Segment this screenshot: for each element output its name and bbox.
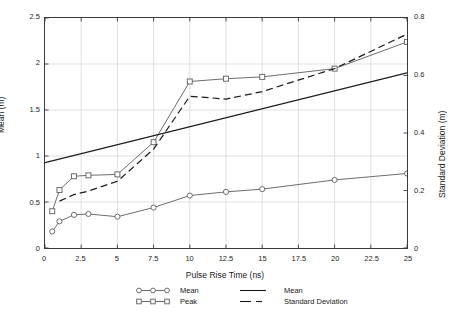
legend-symbol-dashed-line: [240, 296, 280, 307]
legend-item-mean-markers: Mean: [136, 285, 240, 296]
axis-tick-label: 15: [258, 255, 266, 263]
axis-tick-label: 10: [185, 255, 193, 263]
chart-legend: Mean Mean Peak Standard Deviation: [136, 285, 386, 307]
legend-item-peak-markers: Peak: [136, 296, 240, 307]
legend-label: Mean: [180, 285, 199, 296]
legend-row: Mean Mean: [136, 285, 386, 296]
legend-symbol-solid-line: [240, 285, 280, 296]
axis-tick-label: 0: [14, 245, 40, 253]
legend-symbol-square-line: [136, 296, 176, 307]
axis-tick-label: 2.5: [14, 13, 40, 21]
legend-item-std-line: Standard Deviation: [240, 296, 348, 307]
legend-item-mean-line: Mean: [240, 285, 303, 296]
axis-tick-label: 1.5: [14, 106, 40, 114]
legend-label: Peak: [180, 296, 197, 307]
legend-label: Standard Deviation: [284, 296, 348, 307]
data-layer: [45, 18, 407, 248]
axis-tick-label: 0.5: [14, 199, 40, 207]
y-axis-right-title: Standard Deviation (m): [437, 111, 447, 198]
legend-row: Peak Standard Deviation: [136, 296, 386, 307]
x-axis-title: Pulse Rise Time (ns): [186, 270, 264, 280]
axis-tick-label: 0.8: [414, 13, 440, 21]
axis-tick-label: 7.5: [148, 255, 158, 263]
axis-tick-label: 2: [14, 60, 40, 68]
axis-tick-label: 20: [331, 255, 339, 263]
axis-tick-label: 22.5: [364, 255, 379, 263]
axis-tick-label: 1: [14, 152, 40, 160]
axis-tick-label: 17.5: [291, 255, 306, 263]
axis-tick-label: 5: [115, 255, 119, 263]
legend-symbol-circle-line: [136, 285, 176, 296]
axis-tick-label: 0.6: [414, 71, 440, 79]
axis-tick-label: 0: [414, 245, 440, 253]
legend-label: Mean: [284, 285, 303, 296]
axis-tick-label: 25: [404, 255, 412, 263]
axis-tick-label: 12.5: [219, 255, 234, 263]
plot-area: [44, 17, 408, 249]
chart-figure: 00.511.522.5 00.20.40.60.8 02.557.51012.…: [0, 0, 450, 320]
axis-tick-label: 0: [42, 255, 46, 263]
y-axis-left-title: Mean (m): [0, 97, 6, 133]
axis-tick-label: 2.5: [75, 255, 85, 263]
